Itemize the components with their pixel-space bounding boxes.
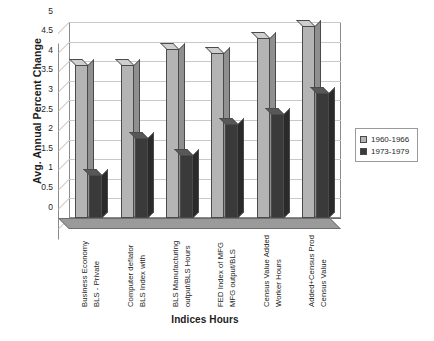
x-tick-label: Census Value	[319, 217, 328, 307]
bar-series-b-1[interactable]	[135, 138, 148, 218]
bar-series-a-3[interactable]	[211, 53, 224, 218]
gridline	[69, 81, 341, 82]
y-tick-label: 0.5	[27, 183, 53, 192]
x-tick-label: BLS Index with	[138, 217, 147, 307]
y-tick-label: 2	[27, 124, 53, 133]
bar-front-face	[180, 155, 193, 218]
bar-side-face	[284, 108, 290, 218]
chart-legend: 1960-1966 1973-1979	[355, 128, 418, 162]
x-tick-label: Computer deflator	[126, 217, 135, 307]
x-tick-label: Added+Census Prod	[307, 217, 316, 307]
y-tick-label: 5	[27, 7, 53, 16]
bar-front-face	[121, 65, 134, 218]
bar-side-face	[102, 169, 108, 218]
gridline	[69, 179, 341, 180]
plot-top-edge	[47, 11, 330, 22]
bar-series-b-4[interactable]	[271, 114, 284, 218]
bar-series-b-2[interactable]	[180, 155, 193, 218]
legend-swatch-icon	[360, 136, 367, 143]
bar-front-face	[302, 26, 315, 218]
gridline	[69, 120, 341, 121]
bar-series-b-0[interactable]	[89, 175, 102, 218]
x-tick-label: Worker Hours	[274, 217, 283, 307]
legend-swatch-icon	[360, 148, 367, 155]
y-tick-label: 2.5	[27, 105, 53, 114]
bar-series-b-3[interactable]	[225, 124, 238, 218]
bar-front-face	[166, 49, 179, 218]
bar-front-face	[89, 175, 102, 218]
bar-series-a-1[interactable]	[121, 65, 134, 218]
x-tick-label: BLS Manufacturing	[171, 217, 180, 307]
chart-figure: Avg. Annual Percent Change 00.511.522.53…	[0, 0, 434, 341]
gridline	[69, 198, 341, 199]
bar-side-face	[238, 118, 244, 218]
x-tick-label: Business Economy	[80, 217, 89, 307]
bar-series-a-2[interactable]	[166, 49, 179, 218]
x-tick-label: Census Value Added	[262, 217, 271, 307]
gridline-depth	[58, 22, 69, 34]
bar-side-face	[329, 87, 335, 218]
x-tick-label: MFG output/BLS	[228, 217, 237, 307]
plot-area: 00.511.522.533.544.55	[69, 22, 341, 218]
bar-front-face	[271, 114, 284, 218]
y-tick-label: 3	[27, 85, 53, 94]
x-tick-label: BLS - Private	[92, 217, 101, 307]
legend-item-1[interactable]: 1973-1979	[360, 145, 414, 157]
bar-front-face	[257, 38, 270, 218]
legend-label: 1973-1979	[371, 147, 409, 156]
x-tick-label: FED Index of MFG	[216, 217, 225, 307]
y-tick-label: 4.5	[27, 26, 53, 35]
gridline	[69, 100, 341, 101]
bar-series-a-4[interactable]	[257, 38, 270, 218]
bar-side-face	[193, 149, 199, 218]
y-tick-label: 0	[27, 203, 53, 212]
bar-front-face	[225, 124, 238, 218]
gridline	[69, 61, 341, 62]
bar-series-b-5[interactable]	[316, 93, 329, 218]
x-axis-title: Indices Hours	[60, 314, 350, 325]
gridline	[69, 140, 341, 141]
legend-label: 1960-1966	[371, 135, 409, 144]
gridline	[69, 159, 341, 160]
bar-series-a-0[interactable]	[75, 65, 88, 218]
legend-item-0[interactable]: 1960-1966	[360, 133, 414, 145]
bar-front-face	[135, 138, 148, 218]
bar-front-face	[316, 93, 329, 218]
y-tick-label: 1.5	[27, 144, 53, 153]
plot-side-wall	[58, 33, 69, 240]
x-tick-label: output/BLS Hours	[183, 217, 192, 307]
gridline	[69, 42, 341, 43]
y-tick-label: 3.5	[27, 65, 53, 74]
y-tick-label: 1	[27, 163, 53, 172]
bar-front-face	[75, 65, 88, 218]
x-axis-category-labels: Business EconomyBLS - PrivateComputer de…	[69, 219, 341, 311]
bar-front-face	[211, 53, 224, 218]
bar-series-a-5[interactable]	[302, 26, 315, 218]
bar-side-face	[148, 132, 154, 218]
y-tick-label: 4	[27, 46, 53, 55]
